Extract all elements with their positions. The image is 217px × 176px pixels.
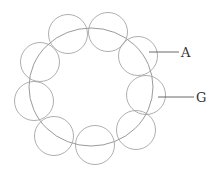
label-g: G [196, 90, 206, 105]
small-circle-5 [117, 111, 156, 150]
label-a: A [180, 45, 191, 60]
small-circle-4 [127, 76, 166, 115]
small-circle-8 [15, 82, 54, 121]
small-circles-group [15, 13, 166, 165]
small-circle-1 [49, 15, 88, 54]
small-circle-9 [21, 43, 60, 82]
small-circle-7 [35, 117, 74, 156]
small-circle-3 [119, 37, 158, 76]
circle-ring-diagram: A G [0, 0, 217, 176]
